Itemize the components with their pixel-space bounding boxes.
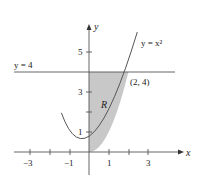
curve-label: y = x²	[141, 38, 163, 48]
x-axis-arrow-icon	[178, 150, 184, 155]
x-tick-label: 3	[146, 158, 151, 168]
point-label: (2, 4)	[130, 77, 150, 87]
shaded-region-r	[89, 72, 128, 152]
region-label: R	[100, 99, 107, 110]
y-axis-label: y	[93, 21, 99, 32]
x-axis-label: x	[185, 147, 191, 158]
y-tick-label: 1	[78, 127, 83, 137]
y-axis-arrow-icon	[87, 24, 92, 30]
x-tick-label: 1	[107, 158, 112, 168]
y-tick-label: 5	[78, 47, 83, 57]
region-diagram: y x y = x² y = 4 (2, 4) R −3 −1 1 3 1 3 …	[0, 0, 201, 181]
x-tick-label: −1	[64, 158, 74, 168]
x-tick-label: −3	[23, 158, 33, 168]
y-tick-label: 3	[78, 87, 83, 97]
line-label: y = 4	[14, 60, 33, 70]
